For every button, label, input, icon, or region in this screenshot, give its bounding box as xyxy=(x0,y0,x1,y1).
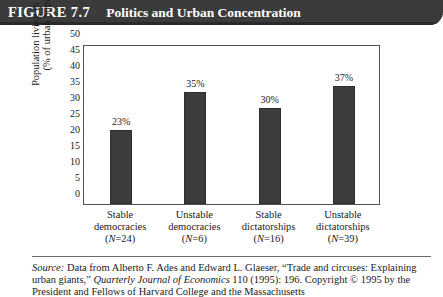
bar[interactable] xyxy=(184,92,206,204)
bar[interactable] xyxy=(333,86,355,204)
source-line1-rest: Data from Alberto F. Ades and Edward L. … xyxy=(64,262,368,273)
y-tick-45: 45 xyxy=(70,45,80,55)
source-note: Source: Data from Alberto F. Ades and Ed… xyxy=(32,262,436,297)
x-category-label: Stabledictatorships(N=16) xyxy=(232,209,306,245)
y-tick-15: 15 xyxy=(70,141,80,151)
x-category-line: democracies xyxy=(83,221,157,233)
bar-slot: 37% xyxy=(307,46,381,204)
bar-value-label: 37% xyxy=(335,73,353,83)
x-category-line: dictatorships xyxy=(306,221,380,233)
x-category-n-label: (N=24) xyxy=(83,233,157,245)
bar-value-label: 30% xyxy=(260,95,278,105)
source-label: Source: xyxy=(32,262,64,273)
source-journal-title: Quarterly Journal of Economics xyxy=(94,274,230,285)
source-divider xyxy=(32,256,431,257)
y-tick-20: 20 xyxy=(70,125,80,135)
bar-value-label: 23% xyxy=(112,117,130,127)
plot-area: 50454035302520151050 23%35%30%37% xyxy=(83,45,380,205)
figure-title: Politics and Urban Concentration xyxy=(106,5,301,21)
x-category-line: Stable xyxy=(232,209,306,221)
y-axis-label-line2: (% of urban population) xyxy=(41,0,52,95)
figure-title-bar: FIGURE 7.7 Politics and Urban Concentrat… xyxy=(0,0,443,25)
bars-layer: 23%35%30%37% xyxy=(84,46,379,204)
chart-container: Population living in largest city (% of … xyxy=(0,25,443,250)
bar-slot: 35% xyxy=(158,46,232,204)
x-category-line: democracies xyxy=(157,221,231,233)
y-tick-35: 35 xyxy=(70,77,80,87)
bar[interactable] xyxy=(259,108,281,204)
source-line-1: Source: Data from Alberto F. Ades and Ed… xyxy=(32,262,368,273)
bar-slot: 30% xyxy=(233,46,307,204)
x-category-label: Unstabledictatorships(N=39) xyxy=(306,209,380,245)
x-category-line: dictatorships xyxy=(232,221,306,233)
x-category-line: Unstable xyxy=(157,209,231,221)
y-tick-0: 0 xyxy=(75,189,80,199)
y-tick-5: 5 xyxy=(75,173,80,183)
y-tick-40: 40 xyxy=(70,61,80,71)
y-tick-10: 10 xyxy=(70,157,80,167)
y-tick-25: 25 xyxy=(70,109,80,119)
y-tick-50: 50 xyxy=(70,29,80,39)
y-tick-30: 30 xyxy=(70,93,80,103)
x-category-label: Unstabledemocracies(N=6) xyxy=(157,209,231,245)
source-line2-b: 110 (1995): 196. Copyright xyxy=(230,274,348,285)
y-axis-label-line1: Population living in largest city xyxy=(30,0,41,95)
x-category-n-label: (N=39) xyxy=(306,233,380,245)
x-category-line: Unstable xyxy=(306,209,380,221)
bar-value-label: 35% xyxy=(186,79,204,89)
y-axis-label: Population living in largest city (% of … xyxy=(30,0,52,95)
x-category-line: Stable xyxy=(83,209,157,221)
x-category-n-label: (N=6) xyxy=(157,233,231,245)
bar[interactable] xyxy=(110,130,132,204)
x-category-n-label: (N=16) xyxy=(232,233,306,245)
bar-slot: 23% xyxy=(84,46,158,204)
x-category-label: Stabledemocracies(N=24) xyxy=(83,209,157,245)
